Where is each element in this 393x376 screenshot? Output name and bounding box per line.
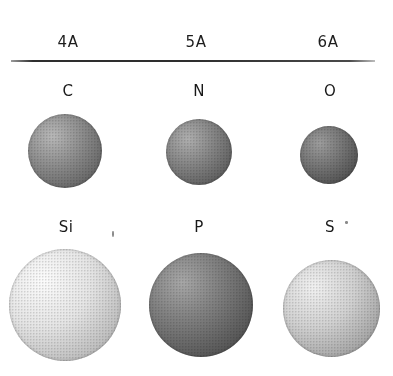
element-label-o: O	[290, 82, 370, 100]
group-header-5a: 5A	[156, 33, 236, 51]
group-header-4a-label: 4A	[58, 33, 79, 51]
group-header-5a-label: 5A	[186, 33, 207, 51]
atom-sphere-si-rim	[9, 249, 121, 361]
element-label-n: N	[159, 82, 239, 100]
atom-sphere-si	[9, 249, 121, 361]
element-label-p: P	[159, 218, 239, 236]
atom-sphere-s-rim	[283, 260, 380, 357]
element-symbol-n: N	[193, 82, 205, 100]
group-header-4a: 4A	[28, 33, 108, 51]
element-symbol-c: C	[63, 82, 74, 100]
element-symbol-o: O	[324, 82, 336, 100]
atom-sphere-c-rim	[28, 114, 102, 188]
atomic-size-figure: 4A 5A 6A C N O Si P S	[0, 0, 393, 376]
group-header-6a: 6A	[288, 33, 368, 51]
element-symbol-p: P	[194, 218, 203, 236]
element-label-si: Si	[26, 218, 106, 236]
element-label-c: C	[28, 82, 108, 100]
atom-sphere-o	[300, 126, 358, 184]
atom-sphere-n	[166, 119, 232, 185]
scan-artifact-speck	[345, 221, 348, 224]
scan-artifact-speck	[112, 231, 114, 237]
atom-sphere-p	[149, 253, 253, 357]
atom-sphere-c	[28, 114, 102, 188]
atom-sphere-p-rim	[149, 253, 253, 357]
element-symbol-s: S	[325, 218, 335, 236]
element-symbol-si: Si	[59, 218, 73, 236]
header-divider-rule	[11, 60, 375, 62]
atom-sphere-n-rim	[166, 119, 232, 185]
atom-sphere-s	[283, 260, 380, 357]
element-label-s: S	[290, 218, 370, 236]
atom-sphere-o-rim	[300, 126, 358, 184]
group-header-6a-label: 6A	[318, 33, 339, 51]
